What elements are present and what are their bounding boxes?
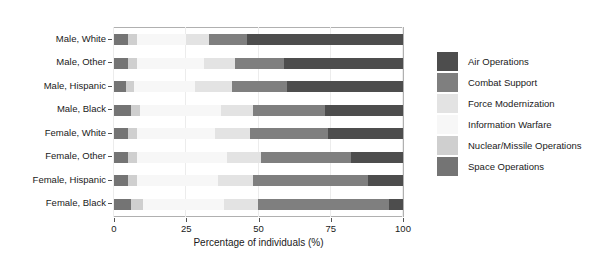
legend-swatch	[437, 73, 458, 92]
y-axis-labels: Male, WhiteMale, OtherMale, HispanicMale…	[0, 27, 106, 217]
bar-segment	[114, 128, 128, 139]
legend-swatch	[437, 136, 458, 155]
x-axis-tick-mark	[186, 218, 187, 222]
bar-segment	[114, 199, 131, 210]
legend-swatch	[437, 52, 458, 71]
x-axis-tick-label: 100	[395, 223, 411, 234]
y-axis-tick-mark	[108, 180, 112, 181]
bar-segment	[114, 81, 126, 92]
bar-row	[114, 152, 403, 163]
bar-segment	[284, 58, 402, 69]
y-axis-tick-mark	[108, 39, 112, 40]
x-axis-tick-mark	[403, 218, 404, 222]
x-axis-tick-mark	[259, 218, 260, 222]
bar-segment	[114, 34, 128, 45]
legend-item[interactable]: Air Operations	[437, 51, 582, 72]
y-axis-tick-mark	[108, 109, 112, 110]
bar-segment	[235, 58, 284, 69]
legend-swatch	[437, 115, 458, 134]
legend-swatch	[437, 157, 458, 176]
bar-segment	[131, 199, 143, 210]
bar-segment	[137, 175, 218, 186]
bar-segment	[186, 34, 209, 45]
y-axis-tick-label: Male, Black	[57, 103, 106, 115]
bar-segment	[128, 128, 137, 139]
bar-segment	[250, 128, 328, 139]
bar-segment	[137, 152, 227, 163]
bar-segment	[195, 81, 233, 92]
legend-label: Combat Support	[468, 77, 537, 88]
bar-segment	[128, 34, 137, 45]
y-axis-tick-mark	[108, 86, 112, 87]
bar-segment	[261, 152, 351, 163]
plot-area	[113, 27, 404, 217]
y-axis-tick-mark	[108, 203, 112, 204]
bar-row	[114, 199, 403, 210]
bar-row	[114, 105, 403, 116]
bar-segment	[389, 199, 403, 210]
bar-segment	[134, 81, 195, 92]
bar-segment	[114, 152, 128, 163]
bar-segment	[351, 152, 403, 163]
bar-row	[114, 81, 403, 92]
y-axis-tick-label: Female, White	[45, 127, 106, 139]
legend-label: Nuclear/Missile Operations	[468, 140, 582, 151]
bar-row	[114, 175, 403, 186]
legend-label: Air Operations	[468, 56, 529, 67]
y-axis-tick-label: Male, Other	[56, 56, 106, 68]
bar-segment	[114, 175, 128, 186]
y-axis-tick-mark	[108, 156, 112, 157]
x-axis-tick-mark	[114, 218, 115, 222]
y-axis-tick-mark	[108, 62, 112, 63]
legend-item[interactable]: Force Modernization	[437, 93, 582, 114]
bar-segment	[126, 81, 135, 92]
bar-segment	[140, 105, 221, 116]
legend-item[interactable]: Information Warfare	[437, 114, 582, 135]
bar-segment	[232, 81, 287, 92]
bar-segment	[128, 175, 137, 186]
bar-segment	[253, 175, 369, 186]
bar-segment	[114, 105, 131, 116]
bar-segment	[114, 58, 128, 69]
bar-row	[114, 128, 403, 139]
y-axis-tick-mark	[108, 133, 112, 134]
bar-segment	[224, 199, 259, 210]
x-axis-tick-label: 0	[111, 223, 116, 234]
bar-segment	[247, 34, 403, 45]
x-axis-tick-label: 50	[253, 223, 264, 234]
bar-segment	[253, 105, 325, 116]
bar-segment	[137, 128, 215, 139]
x-axis-tick-label: 25	[181, 223, 192, 234]
legend-swatch	[437, 94, 458, 113]
bar-segment	[325, 105, 403, 116]
y-axis-tick-label: Male, White	[56, 33, 106, 45]
bar-segment	[218, 175, 253, 186]
bar-segment	[128, 152, 137, 163]
bar-segment	[368, 175, 403, 186]
legend: Air OperationsCombat SupportForce Modern…	[437, 51, 582, 177]
legend-item[interactable]: Space Operations	[437, 156, 582, 177]
x-axis-title: Percentage of individuals (%)	[113, 237, 404, 248]
y-axis-tick-label: Female, Hispanic	[33, 174, 106, 186]
legend-item[interactable]: Combat Support	[437, 72, 582, 93]
bar-segment	[128, 58, 137, 69]
bar-segment	[258, 199, 388, 210]
legend-label: Information Warfare	[468, 119, 552, 130]
bar-segment	[137, 58, 203, 69]
bar-segment	[209, 34, 247, 45]
x-axis-tick-mark	[331, 218, 332, 222]
bar-row	[114, 58, 403, 69]
bar-segment	[227, 152, 262, 163]
y-axis-tick-label: Female, Black	[46, 197, 106, 209]
legend-label: Space Operations	[468, 161, 544, 172]
legend-label: Force Modernization	[468, 98, 555, 109]
bar-segment	[204, 58, 236, 69]
bar-segment	[221, 105, 253, 116]
bar-segment	[215, 128, 250, 139]
bar-segment	[328, 128, 403, 139]
x-axis-tick-label: 75	[325, 223, 336, 234]
y-axis-tick-label: Male, Hispanic	[44, 80, 106, 92]
legend-item[interactable]: Nuclear/Missile Operations	[437, 135, 582, 156]
bar-segment	[287, 81, 403, 92]
y-axis-tick-label: Female, Other	[45, 150, 106, 162]
